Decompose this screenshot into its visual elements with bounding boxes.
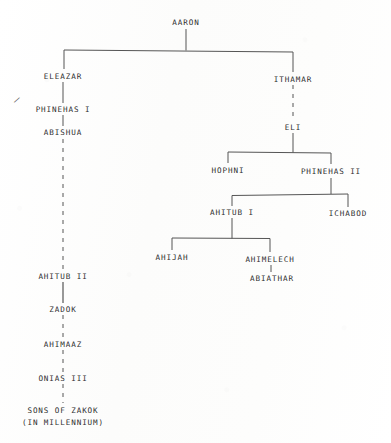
node-ichabod: ICHABOD: [329, 208, 367, 219]
node-eleazar: ELEAZAR: [44, 71, 82, 82]
node-eli: ELI: [285, 122, 301, 133]
node-sons-of-zakok-line1: SONS OF ZAKOK: [22, 405, 104, 417]
node-ahijah: AHIJAH: [156, 252, 189, 263]
node-ithamar: ITHAMAR: [274, 74, 312, 85]
node-ahitub-i: AHITUB I: [210, 207, 254, 218]
node-abiathar: ABIATHAR: [250, 273, 294, 284]
node-phinehas-ii: PHINEHAS II: [301, 166, 361, 177]
node-phinehas-i: PHINEHAS I: [36, 104, 91, 115]
edge-ahitub-i-children-bar: [172, 238, 270, 239]
edge-aaron-sibling-bar: [64, 50, 293, 52]
node-onias-iii: ONIAS III: [38, 373, 87, 384]
node-aaron: AARON: [172, 17, 199, 28]
genealogy-chart-page: AARON ELEAZAR PHINEHAS I ABISHUA AHITUB …: [0, 0, 391, 443]
node-hophni: HOPHNI: [212, 165, 245, 176]
node-sons-of-zakok-line2: (IN MILLENNIUM): [22, 416, 104, 428]
node-ahitub-ii: AHITUB II: [38, 271, 87, 282]
node-ahimelech: AHIMELECH: [245, 254, 294, 265]
edge-eli-sibling-bar: [228, 152, 331, 153]
node-ahimaaz: AHIMAAZ: [44, 339, 82, 350]
node-zadok: ZADOK: [49, 304, 76, 315]
node-abishua: ABISHUA: [44, 127, 82, 138]
node-sons-of-zakok: SONS OF ZAKOK (IN MILLENNIUM): [22, 405, 104, 428]
edge-phinehas-ii-children-bar: [232, 194, 348, 196]
